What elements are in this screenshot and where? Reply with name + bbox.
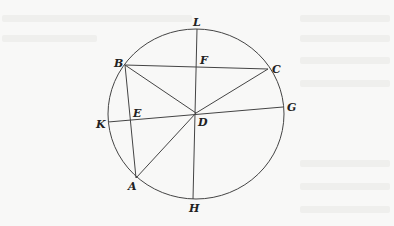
label-g: G [287,101,296,114]
segment-bd [125,65,196,113]
chord-ba [125,65,136,178]
label-e: E [132,107,142,120]
geometry-diagram: L F B C G E K D A H [0,0,394,226]
label-c: C [272,63,281,76]
label-f: F [199,54,209,67]
label-b: B [113,57,123,70]
label-d: D [197,116,208,129]
segment-cd [196,69,268,113]
segment-ad [136,113,196,178]
label-l: L [192,16,201,29]
label-h: H [188,202,200,215]
label-k: K [95,118,106,131]
label-a: A [127,180,137,193]
